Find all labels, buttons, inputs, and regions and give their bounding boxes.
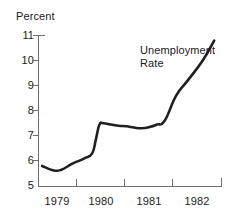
data-line-unemployment-rate (42, 41, 214, 171)
x-axis-ticks (77, 179, 173, 186)
plot-area (0, 0, 238, 218)
y-axis-ticks (33, 36, 38, 161)
unemployment-rate-chart: Percent 11 10 9 8 7 6 5 1979 1980 1981 1… (0, 0, 238, 218)
axis-lines (38, 35, 222, 187)
